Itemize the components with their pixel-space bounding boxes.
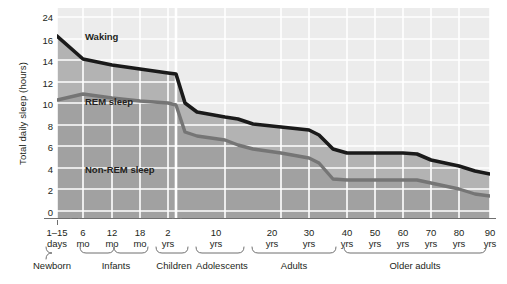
group-label-infants: Infants	[82, 260, 150, 271]
x-tick-2yrs-l1: 2	[165, 227, 170, 238]
group-label-newborn: Newborn	[20, 260, 84, 271]
group-label-adolescents: Adolescents	[192, 260, 252, 271]
chart-canvas	[57, 8, 490, 218]
x-tick-60yrs-l1: 60	[398, 227, 409, 238]
y-tick-0: 0	[33, 208, 53, 218]
y-tick-10: 10	[33, 100, 53, 110]
x-tick-90yrs-l1: 90	[485, 227, 496, 238]
y-tick-2: 2	[33, 186, 53, 196]
x-tick-18mo-l1: 18	[135, 227, 146, 238]
y-tick-6: 6	[33, 143, 53, 153]
x-tick-30yrs-l1: 30	[304, 227, 315, 238]
group-label-children: Children	[150, 260, 198, 271]
y-axis-title: Total daily sleep (hours)	[17, 29, 28, 199]
y-tick-16: 16	[33, 36, 53, 46]
age-group-braces	[0, 246, 507, 260]
x-tick-40yrs-l1: 40	[342, 227, 353, 238]
x-axis-line	[44, 218, 496, 219]
x-tick-10yrs-l1: 10	[211, 227, 222, 238]
plot-area: Waking REM sleep Non-REM sleep	[57, 8, 490, 218]
x-tick-50yrs-l1: 50	[370, 227, 381, 238]
x-tick-12mo-l1: 12	[107, 227, 118, 238]
x-tickmark-0	[57, 220, 58, 225]
sleep-chart-figure: Total daily sleep (hours) 24 16 14 12 10…	[0, 0, 507, 284]
x-tick-20yrs-l1: 20	[267, 227, 278, 238]
y-tick-4: 4	[33, 165, 53, 175]
group-label-adults: Adults	[262, 260, 326, 271]
y-tick-8: 8	[33, 122, 53, 132]
x-tick-6mo-l1: 6	[80, 227, 85, 238]
x-tick-70yrs-l1: 70	[426, 227, 437, 238]
y-tick-12: 12	[33, 79, 53, 89]
y-tick-24: 24	[33, 13, 53, 23]
region-label-nonrem: Non-REM sleep	[85, 164, 155, 175]
group-label-older-adults: Older adults	[370, 260, 460, 271]
region-label-rem: REM sleep	[85, 96, 133, 107]
y-tick-14: 14	[33, 57, 53, 67]
region-label-waking: Waking	[85, 31, 118, 42]
x-tick-80yrs-l1: 80	[454, 227, 465, 238]
